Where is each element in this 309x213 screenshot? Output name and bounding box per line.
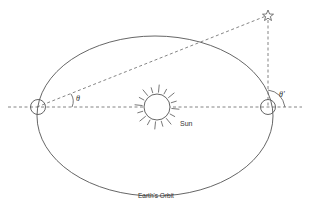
sun-ray bbox=[147, 120, 150, 125]
sun-ray bbox=[151, 87, 153, 93]
star-icon bbox=[263, 10, 274, 21]
orbit-label: Earth's Orbit bbox=[138, 192, 174, 199]
sun-ray bbox=[164, 89, 167, 94]
sun-ray bbox=[139, 97, 144, 100]
sun-ray bbox=[166, 118, 171, 124]
sun-ray bbox=[140, 116, 146, 121]
sun-ray bbox=[135, 105, 143, 106]
sun-ray bbox=[155, 121, 156, 129]
sun-ray bbox=[170, 114, 175, 117]
sun-label: Sun bbox=[180, 120, 193, 127]
angle-label-left: θ bbox=[76, 94, 80, 103]
sun-ray bbox=[171, 108, 179, 109]
parallax-diagram: θ θ' Sun Earth's Orbit bbox=[0, 0, 309, 213]
sun-ray bbox=[168, 93, 174, 98]
angle-label-right: θ' bbox=[279, 90, 285, 99]
sun-ray bbox=[161, 121, 163, 127]
sun-ray bbox=[143, 90, 148, 96]
sun-ray bbox=[171, 101, 177, 103]
angle-arc-left bbox=[71, 94, 73, 107]
sun-ray bbox=[158, 85, 159, 93]
sightline-left bbox=[37, 16, 266, 107]
sun-ray bbox=[137, 111, 143, 113]
